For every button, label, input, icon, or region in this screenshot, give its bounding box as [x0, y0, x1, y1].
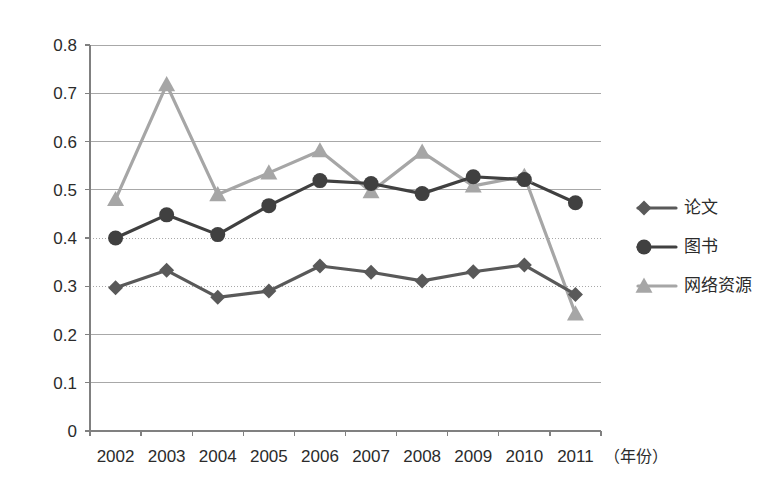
x-tick-label: 2004: [199, 447, 237, 466]
y-tick-label: 0: [68, 422, 77, 441]
y-tick-label: 0.1: [53, 374, 77, 393]
y-tick-label: 0.6: [53, 133, 77, 152]
x-tick-label: 2005: [250, 447, 288, 466]
chart-canvas: 00.10.20.30.40.50.60.70.8 20022003200420…: [0, 0, 783, 497]
y-tick-label: 0.2: [53, 326, 77, 345]
data-point-marker: [261, 198, 276, 213]
data-point-marker: [568, 195, 583, 210]
y-tick-label: 0.7: [53, 84, 77, 103]
y-tick-label: 0.3: [53, 277, 77, 296]
y-tick-label: 0.8: [53, 36, 77, 55]
x-tick-label: 2006: [301, 447, 339, 466]
legend-label: 网络资源: [684, 276, 752, 295]
x-tick-label: 2008: [403, 447, 441, 466]
data-point-marker: [108, 231, 123, 246]
y-tick-label: 0.4: [53, 229, 77, 248]
data-point-marker: [466, 169, 481, 184]
x-tick-label: 2011: [557, 447, 594, 466]
x-tick-label: 2007: [352, 447, 390, 466]
legend-marker: [637, 240, 652, 255]
x-tick-label: 2003: [148, 447, 186, 466]
data-point-marker: [312, 173, 327, 188]
y-tick-label: 0.5: [53, 181, 77, 200]
x-tick-label: 2002: [97, 447, 135, 466]
x-tick-label: 2009: [454, 447, 492, 466]
x-tick-label: 2010: [505, 447, 543, 466]
y-axis-tick-labels: 00.10.20.30.40.50.60.70.8: [53, 36, 77, 441]
x-axis-unit-label: （年份）: [604, 448, 668, 465]
legend-label: 论文: [684, 198, 718, 217]
line-chart: 00.10.20.30.40.50.60.70.8 20022003200420…: [0, 0, 783, 497]
data-point-marker: [210, 227, 225, 242]
data-point-marker: [364, 176, 379, 191]
legend-label: 图书: [684, 237, 718, 256]
data-point-marker: [517, 172, 532, 187]
data-point-marker: [159, 207, 174, 222]
data-point-marker: [415, 186, 430, 201]
